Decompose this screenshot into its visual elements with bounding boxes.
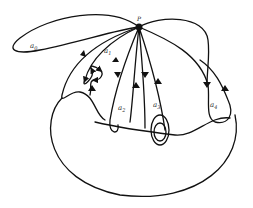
label-a4: a4 <box>210 101 217 110</box>
loop-a1-outer <box>62 27 139 120</box>
loop-a2 <box>110 27 139 132</box>
loop-diagram: P a0 a1 a2 a3 a4 <box>0 0 253 208</box>
label-a0: a0 <box>30 42 38 51</box>
point-p-label: P <box>136 15 142 22</box>
point-p <box>136 24 143 31</box>
direction-arrows <box>80 50 229 91</box>
loop-a4-top <box>139 19 209 85</box>
label-a1: a1 <box>104 47 111 56</box>
label-a2: a2 <box>118 104 125 113</box>
label-a3: a3 <box>153 101 160 110</box>
